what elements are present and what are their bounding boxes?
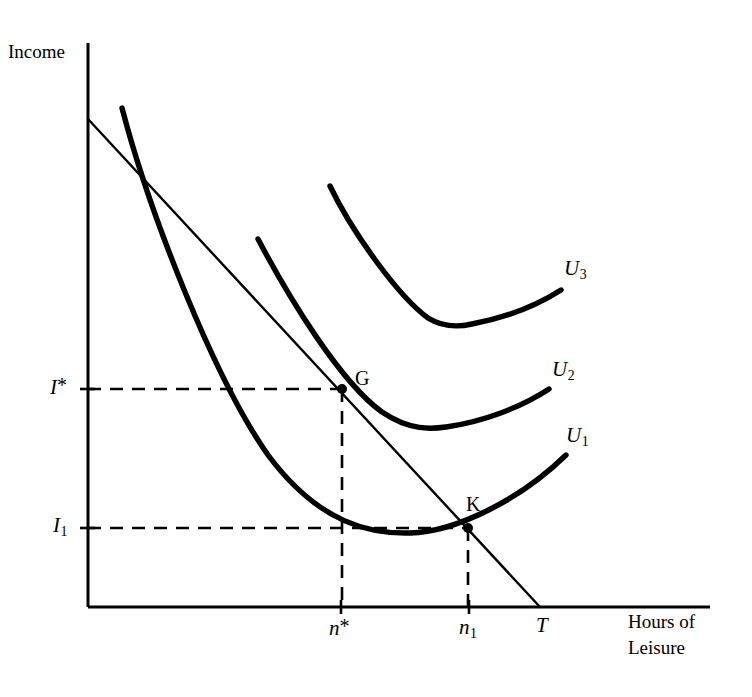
y-axis-title: Income — [8, 42, 65, 61]
curve-label-u1-text: U — [566, 423, 581, 447]
y-tick-label-i-star-mark: * — [57, 374, 67, 396]
curve-label-u2: U2 — [552, 359, 575, 383]
x-tick-label-n-one-sub: 1 — [470, 626, 477, 641]
y-tick-label-i-star: I* — [50, 376, 67, 398]
y-tick-label-i-one-sub: 1 — [60, 524, 67, 539]
indifference-curve-u2 — [258, 239, 549, 428]
point-k-marker — [463, 523, 473, 533]
curve-label-u1-sub: 1 — [581, 434, 588, 449]
x-tick-label-n-star: n* — [329, 617, 349, 639]
x-tick-label-n-one-text: n — [459, 615, 470, 639]
y-tick-label-i-one-text: I — [53, 513, 60, 537]
x-tick-label-n-star-mark: * — [340, 615, 350, 637]
x-tick-label-t: T — [536, 615, 548, 636]
curve-label-u3-text: U — [564, 256, 579, 280]
x-axis-title: Hours of Leisure — [628, 612, 695, 657]
y-tick-label-i-star-text: I — [50, 375, 57, 399]
plot-canvas — [0, 0, 752, 697]
point-label-k: K — [466, 494, 480, 514]
curve-label-u3-sub: 3 — [579, 267, 586, 282]
x-tick-label-n-star-text: n — [329, 616, 340, 640]
point-g-marker — [337, 384, 347, 394]
curve-label-u2-sub: 2 — [567, 368, 574, 383]
curve-label-u3: U3 — [564, 258, 587, 282]
x-axis-title-line1: Hours of — [628, 612, 695, 631]
y-tick-label-i-one: I1 — [53, 515, 67, 539]
budget-constraint-line — [88, 119, 540, 607]
indifference-curve-u1 — [122, 108, 566, 533]
indifference-curve-u3 — [330, 186, 561, 326]
curve-label-u1: U1 — [566, 425, 589, 449]
x-axis-title-line2: Leisure — [628, 638, 695, 657]
point-label-g: G — [355, 368, 369, 388]
x-tick-label-n-one: n1 — [459, 617, 477, 641]
curve-label-u2-text: U — [552, 357, 567, 381]
indifference-curve-figure: Income Hours of Leisure I* I1 n* n1 T G … — [0, 0, 752, 697]
